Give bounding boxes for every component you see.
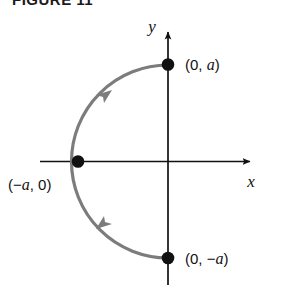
- figure-container: FIGURE 11 y x (0, a) (−a, 0): [0, 0, 283, 297]
- coordinate-plot: y x (0, a) (−a, 0) (0, −a): [0, 0, 283, 297]
- x-axis-label: x: [246, 172, 255, 191]
- point-label-top: (0, a): [185, 56, 220, 73]
- y-axis-label: y: [146, 17, 156, 36]
- point-marker-left: [72, 155, 85, 168]
- direction-arrow-lower-icon: [96, 216, 112, 229]
- point-label-bottom: (0, −a): [185, 250, 228, 267]
- point-marker-bottom: [162, 252, 175, 265]
- point-marker-top: [162, 58, 175, 71]
- point-label-left: (−a, 0): [8, 176, 51, 193]
